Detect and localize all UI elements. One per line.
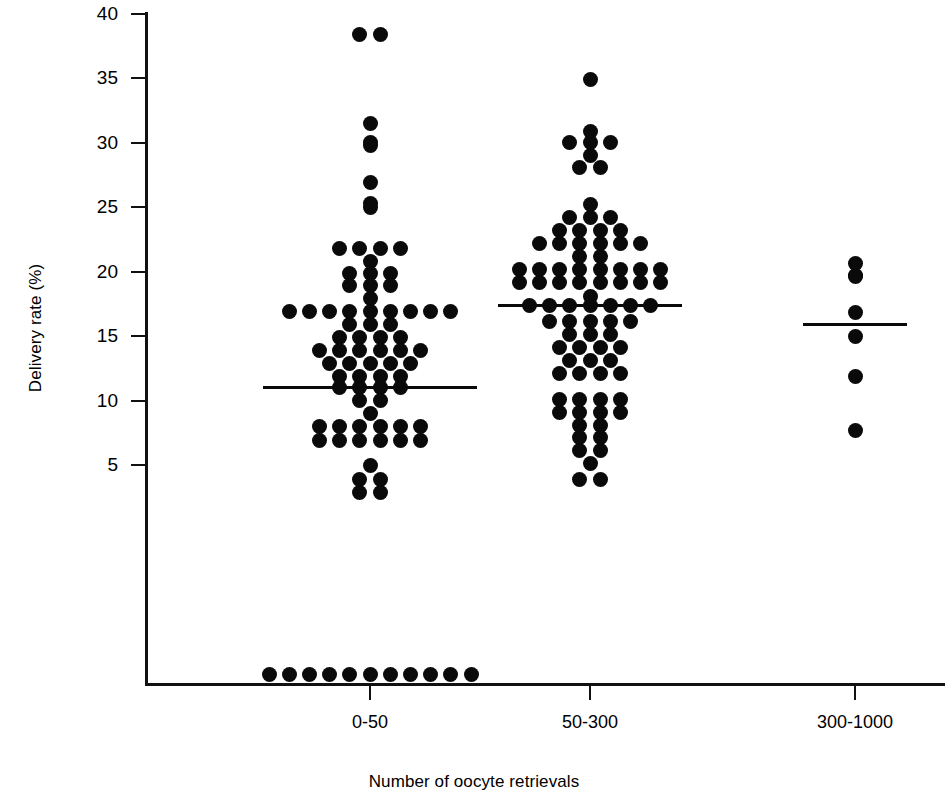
data-point <box>383 317 398 332</box>
data-point <box>383 667 398 682</box>
mean-line <box>498 304 682 307</box>
data-point <box>352 485 367 500</box>
x-axis-line <box>145 683 945 686</box>
data-point <box>342 317 357 332</box>
data-point <box>282 667 297 682</box>
data-point <box>593 160 608 175</box>
data-point <box>363 317 378 332</box>
data-point <box>423 667 438 682</box>
x-axis-tick <box>854 686 856 700</box>
data-point <box>572 340 587 355</box>
data-point <box>373 419 388 434</box>
data-point <box>413 419 428 434</box>
data-point <box>352 393 367 408</box>
data-point <box>552 236 567 251</box>
data-point <box>603 327 618 342</box>
data-point <box>332 419 347 434</box>
data-point <box>393 433 408 448</box>
data-point <box>373 241 388 256</box>
y-axis-tick-label: 10 <box>48 391 118 410</box>
data-point <box>848 269 863 284</box>
data-point <box>393 343 408 358</box>
data-point <box>613 275 628 290</box>
data-point <box>848 329 863 344</box>
data-point <box>583 210 598 225</box>
x-axis-tick <box>369 686 371 700</box>
data-point <box>352 241 367 256</box>
data-point <box>613 405 628 420</box>
data-point <box>572 443 587 458</box>
data-point <box>352 419 367 434</box>
y-axis-title: Delivery rate (%) <box>26 208 46 448</box>
data-point <box>603 353 618 368</box>
data-point <box>623 314 638 329</box>
mean-line <box>803 323 907 326</box>
data-point <box>373 343 388 358</box>
data-point <box>352 433 367 448</box>
data-point <box>282 304 297 319</box>
data-point <box>342 278 357 293</box>
data-point <box>552 275 567 290</box>
y-axis-tick <box>131 464 146 466</box>
data-point <box>312 419 327 434</box>
data-point <box>352 343 367 358</box>
data-point <box>342 356 357 371</box>
data-point <box>633 275 648 290</box>
data-point <box>562 135 577 150</box>
y-axis-tick-label: 40 <box>48 4 118 23</box>
y-axis-tick <box>131 77 146 79</box>
data-point <box>332 433 347 448</box>
y-axis-tick <box>131 206 146 208</box>
data-point <box>393 419 408 434</box>
data-point <box>512 275 527 290</box>
data-point <box>603 135 618 150</box>
data-point <box>363 175 378 190</box>
y-axis-tick-label: 25 <box>48 197 118 216</box>
data-point <box>403 356 418 371</box>
data-point <box>633 236 648 251</box>
y-axis-tick-label: 15 <box>48 326 118 345</box>
data-point <box>373 485 388 500</box>
y-axis-tick-label: 30 <box>48 133 118 152</box>
data-point <box>332 241 347 256</box>
data-point <box>423 304 438 319</box>
data-point <box>572 472 587 487</box>
data-point <box>552 366 567 381</box>
data-point <box>363 667 378 682</box>
x-axis-tick-label: 50-300 <box>490 712 690 732</box>
data-point <box>352 27 367 42</box>
data-point <box>542 314 557 329</box>
y-axis-tick <box>131 400 146 402</box>
data-point <box>302 667 317 682</box>
data-point <box>593 366 608 381</box>
data-point <box>312 433 327 448</box>
data-point <box>403 667 418 682</box>
data-point <box>373 433 388 448</box>
data-point <box>363 406 378 421</box>
data-point <box>593 472 608 487</box>
data-point <box>373 393 388 408</box>
y-axis-tick-label: 20 <box>48 262 118 281</box>
data-point <box>532 236 547 251</box>
data-point <box>572 160 587 175</box>
y-axis-tick-label: 35 <box>48 68 118 87</box>
data-point <box>572 366 587 381</box>
data-point <box>583 456 598 471</box>
data-point <box>363 200 378 215</box>
mean-line <box>263 386 477 389</box>
y-axis-tick <box>131 142 146 144</box>
scatter-chart-figure: Delivery rate (%) Number of oocyte retri… <box>0 0 948 800</box>
data-point <box>613 236 628 251</box>
data-point <box>363 116 378 131</box>
y-axis-tick <box>131 271 146 273</box>
data-point <box>363 356 378 371</box>
data-point <box>312 343 327 358</box>
data-point <box>848 423 863 438</box>
data-point <box>383 356 398 371</box>
y-axis-tick-label: 5 <box>48 455 118 474</box>
data-point <box>583 353 598 368</box>
data-point <box>413 433 428 448</box>
data-point <box>443 304 458 319</box>
data-point <box>332 343 347 358</box>
data-point <box>262 667 277 682</box>
